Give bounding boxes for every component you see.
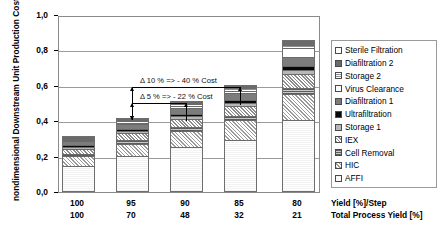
x-tick-label: 32 xyxy=(219,210,259,220)
legend-label: HIC xyxy=(345,161,359,169)
bar-segment xyxy=(117,145,148,157)
legend-item[interactable]: AFFI xyxy=(335,172,434,185)
stacked-bar xyxy=(62,136,95,192)
legend-swatch-icon xyxy=(335,98,342,105)
legend-label: IEX xyxy=(345,136,358,144)
bar-segment xyxy=(171,148,202,191)
bar-segment xyxy=(117,134,148,141)
legend-swatch-icon xyxy=(335,162,342,169)
annotation-arrowhead xyxy=(238,87,242,91)
legend-swatch-icon xyxy=(335,47,342,54)
legend-swatch-icon xyxy=(335,175,342,182)
legend-label: Storage 1 xyxy=(345,123,381,131)
plot-area: Δ 10 % => - 40 % CostΔ 5 % => - 22 % Cos… xyxy=(58,16,320,193)
bar-segment xyxy=(225,107,256,117)
bar-segment xyxy=(225,121,256,140)
legend-item[interactable]: Storage 1 xyxy=(335,121,434,134)
annotation-arrowhead xyxy=(130,87,134,91)
annotation-arrowhead xyxy=(130,103,134,107)
legend-item[interactable]: Diafiltration 2 xyxy=(335,57,434,70)
x-tick-label: 70 xyxy=(111,210,151,220)
legend-label: Sterile Filtration xyxy=(345,46,403,54)
legend-item[interactable]: IEX xyxy=(335,134,434,147)
annotation-label-delta5: Δ 5 % => - 22 % Cost xyxy=(140,92,213,101)
legend-label: Diafiltration 1 xyxy=(345,97,393,105)
bar-segment xyxy=(225,141,256,191)
y-tick-label: 0,0 xyxy=(22,187,48,197)
legend-item[interactable]: Virus Clearance xyxy=(335,82,434,95)
annotation-arrowhead xyxy=(184,103,188,107)
x-tick-label: 90 xyxy=(165,198,205,208)
chart-figure: nondimensional Downstream Unit Productio… xyxy=(0,0,441,243)
y-tick-label: 0,8 xyxy=(22,45,48,55)
bar-segment xyxy=(283,95,314,121)
legend-swatch-icon xyxy=(335,111,342,118)
legend-item[interactable]: Diafiltration 1 xyxy=(335,95,434,108)
legend-swatch-icon xyxy=(335,124,342,131)
annotation-arrowhead xyxy=(130,116,134,120)
legend-swatch-icon xyxy=(335,136,342,143)
legend-swatch-icon xyxy=(335,85,342,92)
x-tick-label: 85 xyxy=(219,198,259,208)
x-axis-row-title: Yield [%]/Step xyxy=(331,198,387,208)
y-tick-label: 0,2 xyxy=(22,152,48,162)
legend-item[interactable]: Cell Removal xyxy=(335,146,434,159)
y-tick-label: 0,4 xyxy=(22,116,48,126)
bar-segment xyxy=(63,157,94,166)
x-tick-label: 48 xyxy=(165,210,205,220)
legend-swatch-icon xyxy=(335,149,342,156)
bar-segment xyxy=(171,132,202,148)
stacked-bar xyxy=(116,118,149,192)
legend-item[interactable]: Storage 2 xyxy=(335,70,434,83)
bar-segment xyxy=(283,75,314,89)
legend-swatch-icon xyxy=(335,72,342,79)
x-tick-label: 21 xyxy=(277,210,317,220)
bar-segment xyxy=(283,58,314,68)
legend: Sterile FiltrationDiafiltration 2Storage… xyxy=(331,40,437,188)
legend-item[interactable]: Ultrafiltration xyxy=(335,108,434,121)
legend-label: Storage 2 xyxy=(345,72,381,80)
x-tick-label: 100 xyxy=(57,198,97,208)
bar-segment xyxy=(63,167,94,192)
gridline xyxy=(59,51,319,52)
legend-swatch-icon xyxy=(335,60,342,67)
bar-segment xyxy=(283,49,314,58)
annotation-connector xyxy=(132,103,186,104)
y-tick-label: 1,0 xyxy=(22,10,48,20)
bar-segment xyxy=(283,121,314,191)
legend-item[interactable]: HIC xyxy=(335,159,434,172)
annotation-label-delta10: Δ 10 % => - 40 % Cost xyxy=(140,76,217,85)
stacked-bar xyxy=(282,40,315,192)
legend-label: Ultrafiltration xyxy=(345,110,392,118)
legend-label: Cell Removal xyxy=(345,149,394,157)
x-tick-label: 80 xyxy=(277,198,317,208)
legend-label: Diafiltration 2 xyxy=(345,59,393,67)
y-tick-label: 0,6 xyxy=(22,81,48,91)
legend-label: AFFI xyxy=(345,174,363,182)
x-axis-row-title: Total Process Yield [%] xyxy=(331,210,423,220)
annotation-connector xyxy=(132,87,240,88)
legend-label: Virus Clearance xyxy=(345,85,404,93)
legend-item[interactable]: Sterile Filtration xyxy=(335,44,434,57)
bar-segment xyxy=(171,120,202,128)
x-tick-label: 100 xyxy=(57,210,97,220)
x-tick-label: 95 xyxy=(111,198,151,208)
bar-segment xyxy=(117,157,148,191)
